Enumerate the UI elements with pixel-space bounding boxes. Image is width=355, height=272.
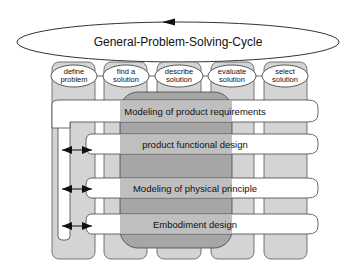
cycle-arrow-icon: [162, 19, 175, 26]
svg-text:solution: solution: [166, 75, 192, 84]
step-describe-solution: describe solution: [155, 65, 203, 87]
cycle-title: General-Problem-Solving-Cycle: [94, 35, 263, 49]
phase-label-physical: Modeling of physical principle: [133, 183, 257, 194]
step-select-solution: select solution: [262, 65, 308, 87]
diagram-canvas: General-Problem-Solving-Cycle: [0, 0, 355, 272]
step-find-solution: find a solution: [103, 65, 149, 87]
svg-text:solution: solution: [272, 75, 298, 84]
phase-label-embodiment: Embodiment design: [153, 219, 237, 230]
svg-text:solution: solution: [219, 75, 245, 84]
svg-text:solution: solution: [113, 75, 139, 84]
step-define-problem: define problem: [51, 65, 97, 87]
general-problem-solving-cycle: General-Problem-Solving-Cycle: [17, 19, 339, 63]
svg-text:problem: problem: [60, 75, 87, 84]
phase-label-requirements: Modeling of product requirements: [124, 106, 266, 117]
phase-label-functional: product functional design: [142, 139, 248, 150]
step-evaluate-solution: evaluate solution: [208, 65, 256, 87]
